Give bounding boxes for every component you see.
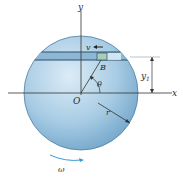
y-axis-label: y [77,2,84,12]
slot [20,52,150,60]
disk-diagram: y x O B v θ r y1 ω [0,0,183,179]
velocity-label: v [86,43,91,52]
omega-label: ω [58,165,65,174]
theta-label: θ [97,80,102,89]
y1-label: y1 [140,71,150,82]
origin-label: O [73,96,81,106]
omega-arrow [50,155,82,160]
omega-arrowhead [79,158,84,162]
x-axis-label: x [172,88,177,98]
block-label: B [99,63,106,72]
block-b [97,53,107,60]
